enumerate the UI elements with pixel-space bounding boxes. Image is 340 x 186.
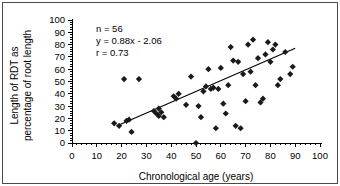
y-tick-label: 10 [54, 125, 65, 136]
data-point [183, 102, 189, 108]
data-point [282, 49, 288, 55]
x-tick-label: 40 [166, 150, 177, 161]
y-tick-label: 70 [54, 51, 65, 62]
y-tick-label: 20 [54, 113, 65, 124]
data-point [247, 69, 253, 75]
chart-figure: 0102030405060708090100010203040506070809… [0, 0, 340, 186]
scatter-plot: 0102030405060708090100010203040506070809… [0, 0, 340, 186]
data-point [193, 140, 199, 146]
x-tick-label: 20 [116, 150, 127, 161]
data-point [287, 71, 293, 77]
data-point [223, 110, 229, 116]
x-tick-label: 90 [290, 150, 301, 161]
data-point [220, 101, 226, 107]
y-tick-label: 80 [54, 39, 65, 50]
data-point [205, 66, 211, 72]
x-tick-label: 0 [69, 150, 74, 161]
data-point [243, 98, 249, 104]
x-tick-label: 60 [216, 150, 227, 161]
data-point [195, 103, 201, 109]
data-point [228, 44, 234, 50]
data-point [198, 114, 204, 120]
y-axis-title-line: Length of RDT as [9, 46, 20, 124]
data-point [136, 76, 142, 82]
data-point [188, 73, 194, 79]
y-tick-label: 30 [54, 101, 65, 112]
y-tick-label: 100 [49, 14, 65, 25]
y-tick-label: 60 [54, 64, 65, 75]
chart-annotation: r = 0.73 [96, 47, 128, 58]
x-axis-title: Chronological age (years) [139, 171, 254, 182]
data-point [218, 65, 224, 71]
y-tick-label: 0 [60, 137, 65, 148]
data-point [121, 76, 127, 82]
data-point [128, 129, 134, 135]
x-tick-label: 70 [240, 150, 251, 161]
x-tick-label: 30 [141, 150, 152, 161]
y-tick-label: 40 [54, 88, 65, 99]
data-point [252, 82, 258, 88]
y-tick-label: 90 [54, 27, 65, 38]
x-tick-label: 100 [312, 150, 328, 161]
data-point [215, 86, 221, 92]
data-point [213, 125, 219, 131]
data-point [225, 82, 231, 88]
data-point [235, 59, 241, 65]
data-point [245, 42, 251, 48]
data-point [290, 64, 296, 70]
data-point [230, 57, 236, 63]
chart-annotation: n = 56 [96, 23, 123, 34]
x-tick-label: 10 [92, 150, 103, 161]
data-point [262, 51, 268, 57]
data-point [255, 55, 261, 61]
data-point [250, 37, 256, 43]
data-point [265, 39, 271, 45]
data-point [277, 76, 283, 82]
data-point [275, 82, 281, 88]
y-tick-label: 50 [54, 76, 65, 87]
y-axis-title-line: percentage of root length [22, 30, 33, 141]
x-tick-label: 80 [265, 150, 276, 161]
chart-annotation: y = 0.88x - 2.06 [96, 35, 162, 46]
x-tick-label: 50 [191, 150, 202, 161]
